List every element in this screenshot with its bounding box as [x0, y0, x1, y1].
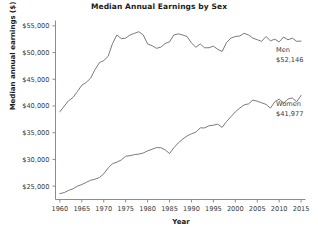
- x-tick-label: 2010: [271, 205, 288, 213]
- x-tick-label: 1970: [95, 205, 112, 213]
- x-tick-label: 1980: [139, 205, 156, 213]
- x-tick-label: 1985: [161, 205, 178, 213]
- x-tick-label: 1990: [183, 205, 200, 213]
- annotation-name-men: Men: [276, 46, 290, 54]
- y-tick-label: $40,000: [22, 102, 49, 110]
- series-line-men: [60, 32, 301, 112]
- annotation-name-women: Women: [276, 100, 301, 108]
- data-series-group: [60, 32, 301, 194]
- annotation-value-women: $41,977: [276, 110, 303, 118]
- y-tick-label: $25,000: [22, 183, 49, 191]
- x-tick-label: 2015: [293, 205, 310, 213]
- y-tick-label: $30,000: [22, 156, 49, 164]
- chart-container: Median Annual Earnings by Sex Median ann…: [0, 0, 318, 233]
- y-axis-ticks: $25,000$30,000$35,000$40,000$45,000$50,0…: [22, 22, 55, 190]
- x-tick-label: 1975: [117, 205, 134, 213]
- plot-area: $25,000$30,000$35,000$40,000$45,000$50,0…: [0, 0, 318, 233]
- y-tick-label: $55,000: [22, 22, 49, 30]
- series-line-women: [60, 95, 301, 193]
- x-tick-label: 1995: [205, 205, 222, 213]
- y-tick-label: $50,000: [22, 49, 49, 57]
- series-annotations: Men$52,146Women$41,977: [276, 46, 303, 118]
- x-axis-ticks: 1960196519701975198019851990199520002005…: [51, 200, 309, 213]
- x-tick-label: 2000: [227, 205, 244, 213]
- y-tick-label: $45,000: [22, 76, 49, 84]
- x-tick-label: 1960: [51, 205, 68, 213]
- x-tick-label: 1965: [73, 205, 90, 213]
- x-tick-label: 2005: [249, 205, 266, 213]
- y-tick-label: $35,000: [22, 129, 49, 137]
- annotation-value-men: $52,146: [276, 56, 303, 64]
